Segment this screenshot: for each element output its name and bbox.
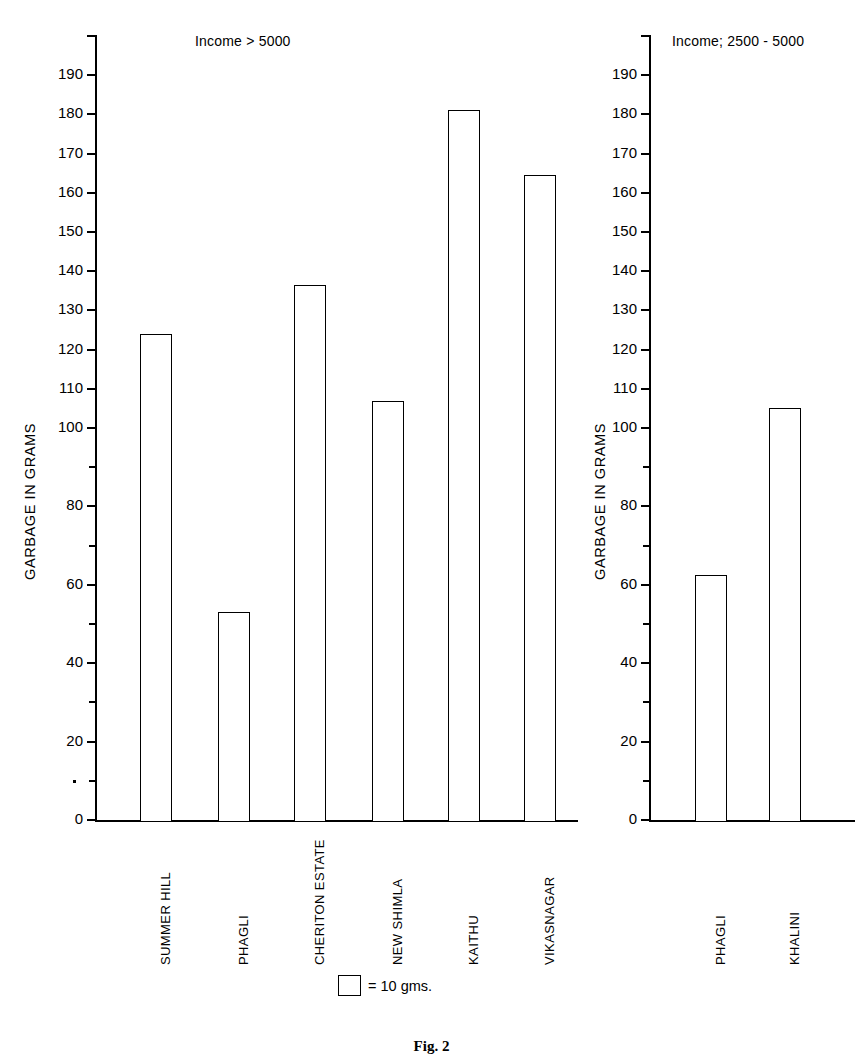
- bar[interactable]: [524, 175, 556, 821]
- y-axis-tick: [641, 192, 651, 194]
- y-axis-tick: [87, 231, 97, 233]
- y-axis-tick: [643, 623, 651, 625]
- y-axis-tick: [641, 427, 651, 429]
- y-axis-tick: [87, 113, 97, 115]
- y-axis-tick: [641, 35, 651, 37]
- y-axis-tick: [641, 153, 651, 155]
- y-axis-tick-label: 20: [37, 732, 83, 749]
- y-axis-tick: [641, 74, 651, 76]
- y-axis-tick-label: 140: [37, 261, 83, 278]
- y-axis-tick: [643, 466, 651, 468]
- y-axis-tick: [641, 662, 651, 664]
- y-axis-tick-label: 80: [591, 496, 637, 513]
- y-axis-tick: [641, 505, 651, 507]
- bar[interactable]: [294, 285, 326, 821]
- y-axis-tick-label: 20: [591, 732, 637, 749]
- y-axis-tick: [87, 741, 97, 743]
- x-axis-category-label: NEW SHIMLA: [390, 879, 405, 965]
- y-axis-tick: [641, 388, 651, 390]
- y-axis-tick-label: 0: [591, 810, 637, 827]
- y-axis-tick-label: 60: [37, 575, 83, 592]
- y-axis-tick: [641, 819, 651, 821]
- y-axis-tick: [87, 270, 97, 272]
- y-axis-tick: [641, 270, 651, 272]
- x-axis-line: [649, 820, 855, 822]
- legend: = 10 gms.: [338, 975, 432, 996]
- y-axis-tick: [87, 584, 97, 586]
- y-axis-tick-label: 100: [37, 418, 83, 435]
- y-axis-tick-label: 170: [37, 144, 83, 161]
- y-axis-tick: [89, 545, 97, 547]
- figure-caption: Fig. 2: [0, 1038, 863, 1055]
- y-axis-tick: [87, 35, 97, 37]
- y-axis-tick: [87, 819, 97, 821]
- y-axis-tick: [87, 192, 97, 194]
- y-axis-tick: [87, 349, 97, 351]
- y-axis-tick: [641, 231, 651, 233]
- y-axis-tick-label: 160: [591, 183, 637, 200]
- y-axis-tick-label: 120: [591, 340, 637, 357]
- y-axis-tick: [641, 584, 651, 586]
- y-axis-tick: [641, 349, 651, 351]
- bar[interactable]: [372, 401, 404, 821]
- y-axis-tick-label: 130: [37, 300, 83, 317]
- y-axis-tick-label: 190: [591, 65, 637, 82]
- y-axis-tick-label: 180: [37, 104, 83, 121]
- left-chart-title: Income > 5000: [195, 33, 291, 49]
- bar[interactable]: [448, 110, 480, 821]
- bar[interactable]: [140, 334, 172, 821]
- y-axis-tick-label: 160: [37, 183, 83, 200]
- y-axis-tick: [641, 741, 651, 743]
- y-axis-tick: [89, 466, 97, 468]
- y-axis-tick-label: 110: [591, 379, 637, 396]
- y-axis-tick: [89, 780, 97, 782]
- y-axis-tick-label: 110: [37, 379, 83, 396]
- y-axis-tick: [643, 701, 651, 703]
- y-axis-tick: [89, 623, 97, 625]
- y-axis-tick-label: 100: [591, 418, 637, 435]
- y-axis-tick-label: 40: [37, 653, 83, 670]
- bar[interactable]: [769, 408, 801, 821]
- y-axis-tick-label: 130: [591, 300, 637, 317]
- x-axis-category-label: PHAGLI: [236, 915, 251, 965]
- y-axis-tick-label: 180: [591, 104, 637, 121]
- y-axis-tick: [643, 780, 651, 782]
- y-axis-tick: [87, 505, 97, 507]
- y-axis-tick: [87, 388, 97, 390]
- y-axis-tick-label: 140: [591, 261, 637, 278]
- y-axis-tick: [87, 74, 97, 76]
- square-swatch-icon: [338, 975, 361, 996]
- y-axis-tick-label: 150: [591, 222, 637, 239]
- y-axis-tick-label: 0: [37, 810, 83, 827]
- x-axis-category-label: SUMMER HILL: [158, 872, 173, 965]
- y-axis-tick-label: 190: [37, 65, 83, 82]
- y-axis-tick: [87, 427, 97, 429]
- y-axis-tick: [87, 153, 97, 155]
- legend-label: = 10 gms.: [368, 978, 432, 994]
- y-axis-tick-label: 40: [591, 653, 637, 670]
- y-axis-tick: [641, 309, 651, 311]
- y-axis-tick-label: 120: [37, 340, 83, 357]
- y-axis-tick: [89, 701, 97, 703]
- x-axis-category-label: CHERITON ESTATE: [312, 839, 327, 965]
- y-axis-tick-label: 150: [37, 222, 83, 239]
- x-axis-category-label: VIKASNAGAR: [542, 876, 557, 965]
- bar[interactable]: [695, 575, 727, 821]
- x-axis-category-label: KHALINI: [787, 912, 802, 965]
- y-axis-tick: [87, 309, 97, 311]
- y-axis-tick: [641, 113, 651, 115]
- left-y-axis-label: GARBAGE IN GRAMS: [22, 423, 38, 580]
- axis-dot-artifact: [73, 780, 76, 783]
- bar[interactable]: [218, 612, 250, 821]
- y-axis-tick-label: 170: [591, 144, 637, 161]
- y-axis-tick-label: 80: [37, 496, 83, 513]
- right-chart-title: Income; 2500 - 5000: [672, 33, 804, 49]
- y-axis-tick: [643, 545, 651, 547]
- x-axis-category-label: KAITHU: [466, 915, 481, 965]
- x-axis-category-label: PHAGLI: [713, 915, 728, 965]
- y-axis-tick-label: 60: [591, 575, 637, 592]
- y-axis-tick: [87, 662, 97, 664]
